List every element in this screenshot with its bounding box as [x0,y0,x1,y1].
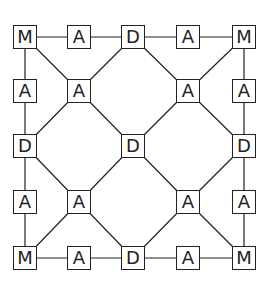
figure-caption [10,274,265,283]
node-a-r0c3: A [176,25,200,49]
node-a-r3c1: A [67,190,91,214]
node-a-r1c1: A [67,79,91,103]
node-a-r1c4: A [232,79,256,103]
node-m-r4c4: M [232,246,256,270]
node-a-r4c3: A [176,246,200,270]
node-a-r3c0: A [13,190,37,214]
node-d-r2c4: D [232,134,256,158]
node-d-r0c2: D [121,25,145,49]
lattice-diagram: MADAMAAAADDDAAAAMADAM [0,0,273,283]
node-d-r2c0: D [13,134,37,158]
node-a-r1c3: A [176,79,200,103]
node-m-r0c0: M [13,25,37,49]
node-d-r2c2: D [121,134,145,158]
node-a-r4c1: A [67,246,91,270]
node-m-r4c0: M [13,246,37,270]
node-m-r0c4: M [232,25,256,49]
node-a-r3c4: A [232,190,256,214]
node-a-r3c3: A [176,190,200,214]
node-d-r4c2: D [121,246,145,270]
node-a-r0c1: A [67,25,91,49]
node-a-r1c0: A [13,79,37,103]
